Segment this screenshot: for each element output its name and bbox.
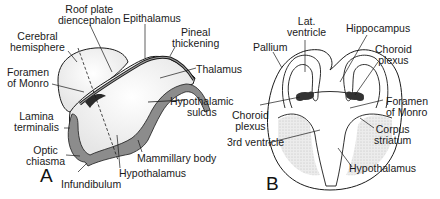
label-infundibulum: Infundibulum [61,179,121,190]
label-hypothalamic-sulcus: Hypothalamic sulcus [170,96,234,118]
label-lat-ventricle: Lat. ventricle [287,16,326,38]
label-hypothalamus-b: Hypothalamus [349,163,416,174]
label-roof-plate-diencephalon: Roof plate diencephalon [58,4,120,26]
label-thalamus: Thalamus [196,64,242,75]
panel-letter-a: A [40,166,53,186]
label-choroid-plexus-left: Choroid plexus [232,110,269,132]
label-cerebral-hemisphere: Cerebral hemisphere [10,31,65,53]
label-foramen-of-monro-b: Foramen of Monro [386,96,428,118]
label-pallium: Pallium [253,42,287,53]
label-hippocampus: Hippocampus [346,23,410,34]
label-choroid-plexus-top: Choroid plexus [375,44,412,66]
label-epithalamus: Epithalamus [123,13,181,24]
label-mammillary-body: Mammillary body [137,153,216,164]
label-hypothalamus-a: Hypothalamus [119,168,186,179]
label-lamina-terminalis: Lamina terminalis [14,111,59,133]
panel-letter-b: B [266,174,279,194]
label-foramen-of-monro-a: Foramen of Monro [7,67,49,89]
label-pineal-thickening: Pineal thickening [172,27,219,49]
label-optic-chiasma: Optic chiasma [26,145,65,167]
label-corpus-striatum: Corpus striatum [374,124,411,146]
label-third-ventricle: 3rd ventricle [227,137,284,148]
